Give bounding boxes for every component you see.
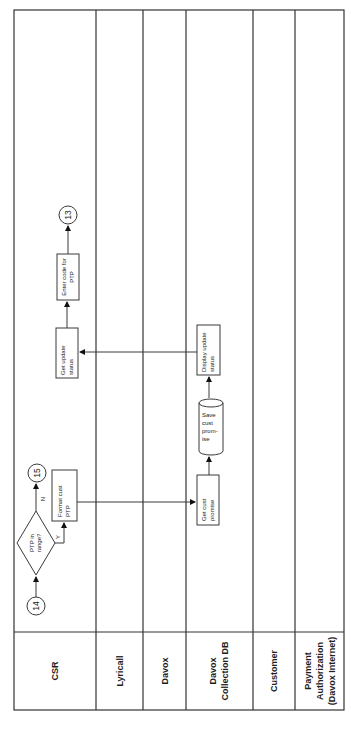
database-label-line4: ise: [202, 436, 210, 442]
process-label-line2: status: [209, 356, 215, 372]
process-label-line1: Enter code for: [61, 258, 67, 296]
process-display-update-status: Display update status: [197, 325, 220, 375]
process-get-update-status: Get update status: [56, 328, 78, 378]
process-label-line1: Get cust: [201, 498, 207, 521]
lane-headers: CSR Lyricall Davox Davox Collection DB C…: [50, 637, 337, 706]
process-label-line1: Format cust: [57, 485, 63, 517]
process-label-line2: status: [68, 359, 74, 375]
lane-header-davox: Davox: [160, 657, 170, 684]
database-label-line2: cust: [202, 420, 213, 426]
connector-label: 13: [63, 210, 73, 220]
process-label-line1: Get update: [60, 345, 66, 375]
process-label-line2: PTP: [69, 271, 75, 283]
database-save-cust-promise: Save cust prom- ise: [199, 399, 223, 455]
lane-header-davox-db-line2: Collection DB: [220, 641, 230, 701]
lane-header-payment-line2: Authorization: [315, 642, 325, 700]
database-label-line1: Save: [202, 412, 216, 418]
lane-header-payment-line1: Payment: [303, 652, 313, 690]
decision-label-line2: range?: [36, 533, 42, 552]
lane-header-payment-line3: (Davox Internet): [327, 637, 337, 706]
process-label-line1: Display update: [201, 332, 207, 372]
process-label-line2: promise: [209, 499, 215, 521]
connector-15: 15: [28, 464, 46, 482]
connector-label: 14: [31, 601, 41, 611]
lane-header-davox-db-line1: Davox: [208, 657, 218, 684]
process-format-cust-ptp: Format cust PTP: [52, 470, 77, 521]
branch-yes-label: Y: [55, 535, 61, 539]
lane-header-csr: CSR: [50, 661, 60, 681]
process-label-line2: PTP: [65, 505, 71, 517]
lane-header-customer: Customer: [269, 650, 279, 693]
connector-14: 14: [27, 597, 45, 615]
lane-header-lyricall: Lyricall: [115, 655, 125, 686]
process-get-cust-promise: Get cust promise: [197, 475, 219, 525]
branch-no-label: N: [40, 497, 46, 501]
connector-label: 15: [32, 468, 42, 478]
process-enter-code-for-ptp: Enter code for PTP: [57, 254, 79, 300]
swimlane-diagram: CSR Lyricall Davox Davox Collection DB C…: [0, 0, 351, 733]
decision-label-line1: PTP in: [29, 534, 35, 552]
database-label-line3: prom-: [202, 428, 218, 434]
connector-13: 13: [59, 206, 77, 224]
